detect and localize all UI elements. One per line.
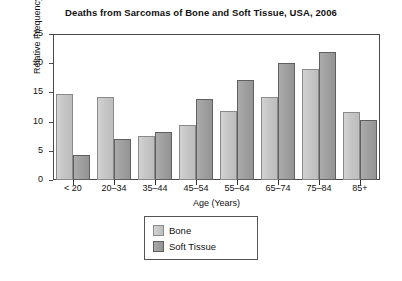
legend-label-soft-tissue: Soft Tissue [169, 241, 216, 252]
y-tick-mark [49, 180, 53, 181]
bar-soft-tissue [278, 63, 295, 180]
x-axis-title: Age (Years) [53, 198, 380, 208]
y-tick-mark [49, 63, 53, 64]
chart-title: Deaths from Sarcomas of Bone and Soft Ti… [0, 7, 402, 18]
y-tick-label: 0 [17, 175, 43, 184]
y-tick-mark [49, 92, 53, 93]
y-tick-label: 10 [17, 117, 43, 126]
bar-bone [261, 97, 278, 180]
bar-bone [97, 97, 114, 180]
bar-soft-tissue [73, 155, 90, 180]
legend-swatch-soft-tissue-icon [153, 241, 164, 252]
bar-soft-tissue [155, 132, 172, 180]
chart-figure: Deaths from Sarcomas of Bone and Soft Ti… [0, 0, 402, 281]
y-tick-label: 20 [17, 58, 43, 67]
legend-item-bone: Bone [153, 222, 257, 238]
y-tick-mark [49, 122, 53, 123]
legend-swatch-bone-icon [153, 225, 164, 236]
bar-soft-tissue [114, 139, 131, 180]
bar-soft-tissue [319, 52, 336, 180]
legend-label-bone: Bone [169, 225, 191, 236]
bar-bone [343, 112, 360, 180]
y-tick-label: 25 [17, 29, 43, 38]
y-tick-mark [49, 34, 53, 35]
y-tick-mark [49, 151, 53, 152]
bar-bone [138, 136, 155, 180]
legend-item-soft-tissue: Soft Tissue [153, 238, 257, 254]
y-tick-label: 5 [17, 146, 43, 155]
bar-bone [302, 69, 319, 180]
y-tick-label: 15 [17, 87, 43, 96]
bar-soft-tissue [360, 120, 377, 180]
chart-legend: Bone Soft Tissue [144, 216, 258, 260]
bar-bone [220, 111, 237, 180]
bar-bone [56, 94, 73, 180]
x-tick-label: 85+ [336, 183, 384, 193]
bar-soft-tissue [196, 99, 213, 180]
bar-bone [179, 125, 196, 180]
bar-soft-tissue [237, 80, 254, 180]
